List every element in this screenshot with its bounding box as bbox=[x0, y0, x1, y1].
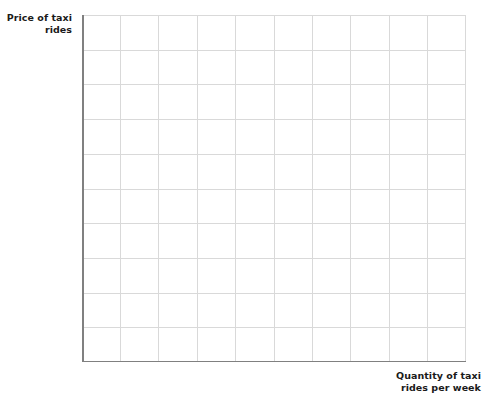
blank-graph-figure: Price of taxi rides bbox=[0, 0, 487, 415]
y-axis-label: Price of taxi rides bbox=[0, 12, 72, 36]
grid-svg bbox=[82, 15, 466, 362]
plot-area[interactable] bbox=[82, 15, 466, 362]
x-axis-label: Quantity of taxi rides per week bbox=[366, 370, 481, 394]
